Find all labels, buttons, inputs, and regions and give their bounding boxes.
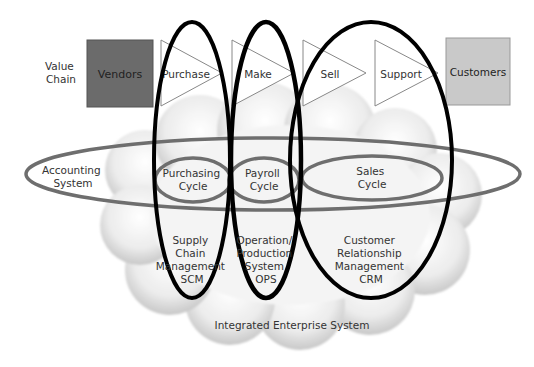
customers-box: Customers <box>446 38 510 105</box>
svg-text:Purchase: Purchase <box>162 68 210 80</box>
accounting-system-label: Accounting System <box>42 164 104 189</box>
integrated-enterprise-diagram: Value Chain Vendors Purchase Make Sell S… <box>0 0 534 367</box>
svg-text:Customers: Customers <box>450 66 506 78</box>
svg-text:Make: Make <box>244 68 272 80</box>
value-chain-label: Value Chain <box>45 60 77 85</box>
svg-text:Sell: Sell <box>321 68 340 80</box>
svg-text:Sales Cycle: Sales Cycle <box>356 165 387 190</box>
value-chain-step-support: Support <box>375 40 438 106</box>
vendors-box: Vendors <box>87 40 153 107</box>
svg-text:Payroll Cycle: Payroll Cycle <box>245 167 283 192</box>
integrated-enterprise-system-label: Integrated Enterprise System <box>215 319 370 331</box>
svg-text:Vendors: Vendors <box>98 68 143 81</box>
svg-text:Support: Support <box>380 68 422 80</box>
